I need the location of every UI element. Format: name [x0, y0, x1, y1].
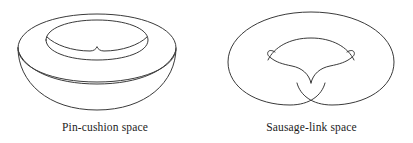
- figure-root: Pin-cushion space Sausage-link space: [0, 0, 413, 143]
- inner-boundary-left-lobe: [268, 51, 311, 84]
- inner-hole-rim: [46, 20, 148, 60]
- figure-panel-sausage-link: Sausage-link space: [210, 0, 413, 143]
- inner-arch-top: [268, 38, 354, 60]
- sausage-link-drawing: [210, 0, 413, 120]
- caption-sausage-link: Sausage-link space: [210, 120, 413, 134]
- outer-boundary-pinched: [228, 12, 394, 105]
- inner-cusp-curve-right: [97, 37, 147, 51]
- figure-panel-pin-cushion: Pin-cushion space: [0, 0, 210, 143]
- caption-pin-cushion: Pin-cushion space: [0, 120, 210, 134]
- pin-cushion-drawing: [0, 0, 210, 120]
- inner-cusp-curve-left: [47, 37, 97, 51]
- lower-bowl-silhouette: [18, 48, 176, 110]
- inner-boundary-right-lobe: [311, 51, 354, 84]
- equator-line: [18, 50, 176, 84]
